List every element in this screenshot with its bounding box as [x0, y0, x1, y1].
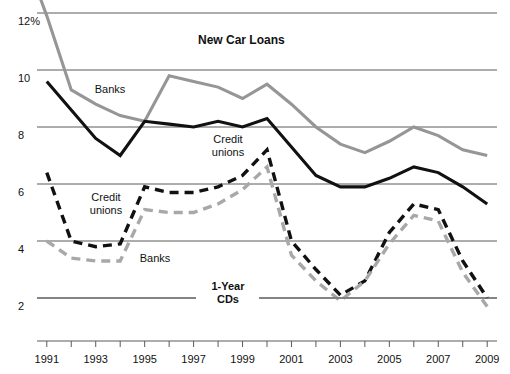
annotation-credit-unions-loans: Credit unions	[201, 133, 255, 159]
series-line	[47, 81, 487, 204]
annotation-credit-unions-loans-line2: unions	[212, 146, 244, 158]
gridlines	[37, 13, 497, 298]
x-tick-label: 1999	[223, 354, 263, 365]
x-tick-label: 1991	[27, 354, 67, 365]
y-tick-label: 10	[18, 73, 30, 84]
line-chart	[0, 0, 510, 374]
annotation-credit-unions-loans-line1: Credit	[213, 133, 242, 145]
annotation-credit-unions-cds: Credit unions	[79, 191, 133, 217]
x-tick-label: 2003	[320, 354, 360, 365]
y-tick-label: 8	[18, 130, 24, 141]
y-tick-label: 6	[18, 187, 24, 198]
series-line	[39, 0, 487, 156]
x-tick-label: 2005	[369, 354, 409, 365]
annotation-banks-loans: Banks	[88, 83, 132, 96]
y-tick-label: 4	[18, 244, 24, 255]
annotation-credit-unions-cds-line1: Credit	[91, 191, 120, 203]
x-tick-label: 1993	[76, 354, 116, 365]
annotation-banks-cds: Banks	[133, 252, 177, 265]
x-axis	[37, 291, 497, 347]
series-line	[47, 167, 487, 307]
annotation-cds-line1: 1-Year	[211, 280, 244, 292]
chart-root: 24681012% 199119931995199719992001200320…	[0, 0, 510, 374]
x-tick-label: 2007	[418, 354, 458, 365]
x-tick-label: 1997	[174, 354, 214, 365]
x-tick-label: 2009	[467, 354, 507, 365]
chart-title: New Car Loans	[198, 33, 285, 47]
y-tick-label: 12%	[18, 16, 40, 27]
y-tick-label: 2	[18, 301, 24, 312]
annotation-1-year-cds: 1-Year CDs	[201, 280, 255, 306]
x-tick-label: 1995	[125, 354, 165, 365]
x-tick-label: 2001	[271, 354, 311, 365]
annotation-credit-unions-cds-line2: unions	[90, 204, 122, 216]
annotation-cds-line2: CDs	[217, 293, 239, 305]
